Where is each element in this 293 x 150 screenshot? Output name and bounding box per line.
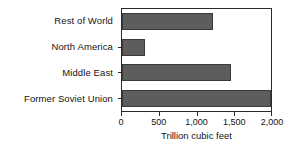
bar-band [122, 9, 271, 35]
x-axis-tick-label: 500 [151, 116, 166, 129]
bar-chart: Rest of World North America Middle East … [0, 0, 293, 150]
x-axis-tick-label: 0 [118, 116, 123, 129]
plot-area [121, 8, 272, 112]
bar-rest-of-world [122, 13, 213, 30]
category-label-rest-of-world: Rest of World [0, 8, 118, 34]
x-axis-tick-labels: 05001,0001,5002,000 [121, 116, 272, 129]
bar-former-soviet-union [122, 90, 271, 107]
x-axis-tick-label: 2,000 [261, 116, 284, 129]
category-label-former-soviet-union: Former Soviet Union [0, 86, 118, 112]
category-label-middle-east: Middle East [0, 60, 118, 86]
bar-middle-east [122, 64, 231, 81]
x-axis-tick-label: 1,000 [185, 116, 208, 129]
category-label-north-america: North America [0, 34, 118, 60]
bar-north-america [122, 39, 145, 56]
bar-band [122, 35, 271, 61]
x-axis-title: Trillion cubic feet [121, 130, 272, 142]
category-axis-labels: Rest of World North America Middle East … [0, 8, 118, 112]
category-tick-mark [118, 47, 123, 48]
bar-band [122, 86, 271, 112]
bar-band [122, 60, 271, 86]
bars-container [122, 9, 271, 111]
x-axis-tick-label: 1,500 [223, 116, 246, 129]
category-tick-mark [118, 98, 123, 99]
category-tick-mark [118, 72, 123, 73]
